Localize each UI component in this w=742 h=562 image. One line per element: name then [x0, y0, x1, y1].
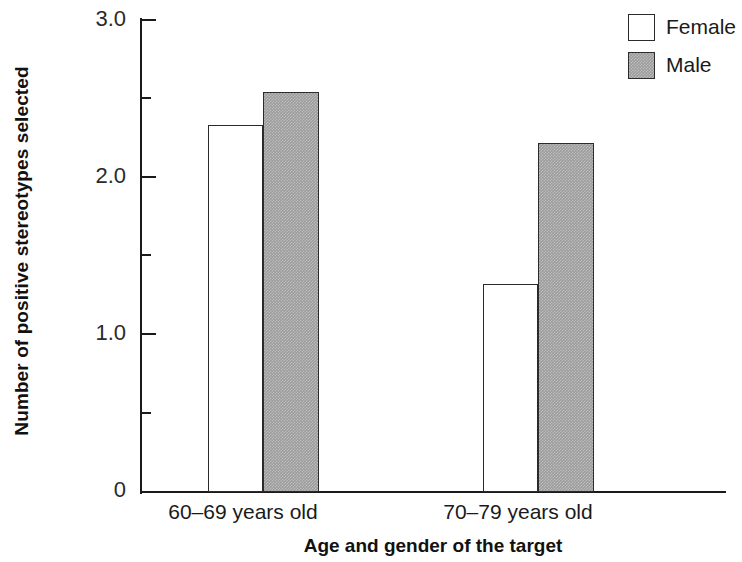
- legend-swatch-female-icon: [628, 14, 655, 41]
- legend-label-male: Male: [666, 53, 712, 77]
- bar-60-69-female[interactable]: [208, 125, 263, 492]
- legend-label-female: Female: [666, 15, 736, 39]
- bar-70-79-male[interactable]: [538, 143, 594, 492]
- legend-item-female[interactable]: Female: [628, 8, 736, 46]
- bars-layer: [142, 20, 726, 492]
- y-tick-label-0: 0: [52, 479, 126, 501]
- bar-60-69-male[interactable]: [263, 92, 319, 492]
- y-tick-label-3: 3.0: [52, 8, 126, 30]
- y-axis-title: Number of positive stereotypes selected: [11, 11, 33, 491]
- y-tick-label-1: 1.0: [52, 322, 126, 344]
- x-axis-title: Age and gender of the target: [140, 535, 726, 557]
- bar-chart-figure: Number of positive stereotypes selected …: [0, 0, 742, 562]
- bar-70-79-female[interactable]: [483, 284, 538, 492]
- legend-swatch-male-icon: [628, 52, 655, 79]
- y-tick-label-2: 2.0: [52, 165, 126, 187]
- x-category-label-70-79: 70–79 years old: [418, 500, 618, 524]
- legend: Female Male: [628, 8, 736, 84]
- x-category-label-60-69: 60–69 years old: [143, 500, 343, 524]
- legend-item-male[interactable]: Male: [628, 46, 736, 84]
